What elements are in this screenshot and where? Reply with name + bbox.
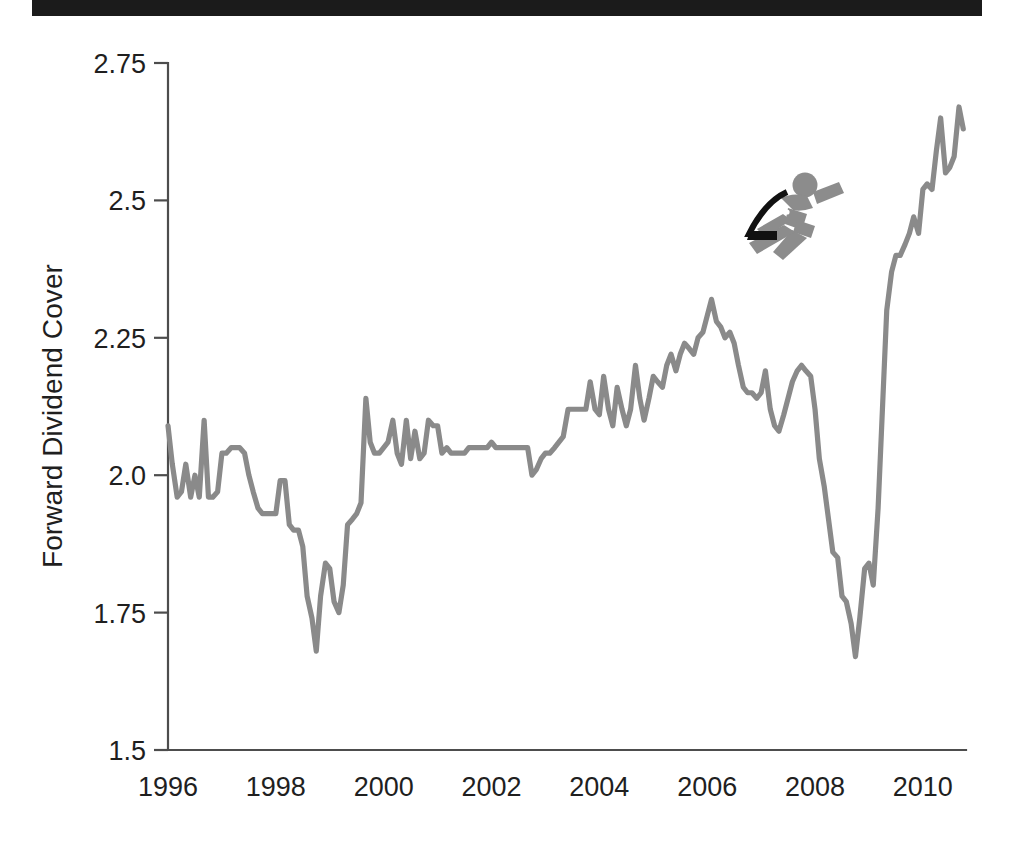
- x-tick-label: 1996: [113, 772, 223, 803]
- x-tick-label: 2006: [652, 772, 762, 803]
- x-tick-label: 1998: [221, 772, 331, 803]
- y-tick-label: 2.25: [93, 324, 146, 354]
- y-tick-label: 2.75: [93, 49, 146, 79]
- x-tick-label: 2002: [437, 772, 547, 803]
- y-tick-label: 1.5: [108, 736, 146, 766]
- x-tick-label: 2010: [868, 772, 978, 803]
- x-tick-label: 2000: [329, 772, 439, 803]
- x-tick-label: 2004: [544, 772, 654, 803]
- y-tick-group: 1.51.752.02.252.52.75: [93, 49, 168, 766]
- chart-plot-area: 1.51.752.02.252.52.75: [0, 0, 1014, 856]
- y-axis-title: Forward Dividend Cover: [37, 216, 69, 616]
- running-figure-logo-icon: [735, 168, 847, 272]
- axis-group: 1.51.752.02.252.52.75: [93, 49, 966, 766]
- x-tick-label: 2008: [760, 772, 870, 803]
- y-tick-label: 2.0: [108, 461, 146, 491]
- chart-figure: 1.51.752.02.252.52.75 Forward Dividend C…: [0, 0, 1014, 856]
- y-tick-label: 2.5: [108, 186, 146, 216]
- y-tick-label: 1.75: [93, 599, 146, 629]
